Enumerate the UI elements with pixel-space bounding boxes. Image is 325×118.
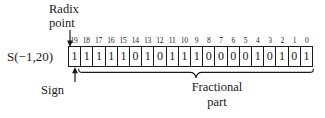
bit-cell: 1 [106, 47, 118, 66]
bit-cell: 0 [215, 47, 227, 66]
bit-index: 7 [215, 36, 227, 46]
bit-index: 18 [80, 36, 92, 46]
bit-cell: 0 [203, 47, 215, 66]
bit-cell: 1 [252, 47, 264, 66]
bit-index: 16 [105, 36, 117, 46]
radix-point-label-line2: point [49, 16, 79, 30]
bit-index: 17 [93, 36, 105, 46]
bit-index: 0 [301, 36, 313, 46]
bit-cell: 0 [240, 47, 252, 66]
bit-index: 9 [191, 36, 203, 46]
bit-index: 13 [142, 36, 154, 46]
bit-index: 2 [276, 36, 288, 46]
sign-label: Sign [41, 83, 64, 98]
bit-index: 12 [154, 36, 166, 46]
bit-cell: 0 [228, 47, 240, 66]
fractional-part-label: Fractional part [152, 80, 282, 110]
fractional-part-brace-icon [78, 68, 314, 80]
bit-cell: 0 [130, 47, 142, 66]
radix-point-label: Radix point [49, 2, 79, 30]
bit-index: 14 [129, 36, 141, 46]
bit-cell: 1 [142, 47, 154, 66]
bit-cell: 1 [276, 47, 288, 66]
bit-cell: 1 [191, 47, 203, 66]
fractional-part-label-line1: Fractional [192, 80, 243, 94]
fixed-point-bit-field-diagram: Radix point S(−1,20) 19 18 17 16 15 14 1… [0, 0, 325, 118]
bit-cell: 1 [69, 47, 81, 66]
radix-point-label-line1: Radix [49, 2, 79, 16]
bit-index: 8 [203, 36, 215, 46]
bit-index-row: 19 18 17 16 15 14 13 12 11 10 9 8 7 6 5 … [68, 36, 313, 46]
bit-cell-grid: 1 1 1 1 1 0 1 0 1 1 1 0 0 0 0 1 0 1 0 1 [68, 46, 313, 67]
bit-index: 11 [166, 36, 178, 46]
bit-cell: 1 [301, 47, 312, 66]
bit-cell: 1 [93, 47, 105, 66]
bit-cell: 1 [167, 47, 179, 66]
bit-index: 1 [289, 36, 301, 46]
bit-index: 10 [178, 36, 190, 46]
bit-cell: 1 [118, 47, 130, 66]
bit-index: 4 [252, 36, 264, 46]
bit-index: 3 [264, 36, 276, 46]
bit-index: 5 [240, 36, 252, 46]
fractional-part-label-line2: part [152, 95, 282, 110]
bit-cell: 1 [179, 47, 191, 66]
bit-index: 6 [227, 36, 239, 46]
bit-cell: 0 [264, 47, 276, 66]
bit-cell: 0 [154, 47, 166, 66]
number-format-label: S(−1,20) [7, 48, 53, 66]
bit-cell: 0 [289, 47, 301, 66]
bit-index: 15 [117, 36, 129, 46]
bit-cell: 1 [81, 47, 93, 66]
bit-index: 19 [68, 36, 80, 46]
